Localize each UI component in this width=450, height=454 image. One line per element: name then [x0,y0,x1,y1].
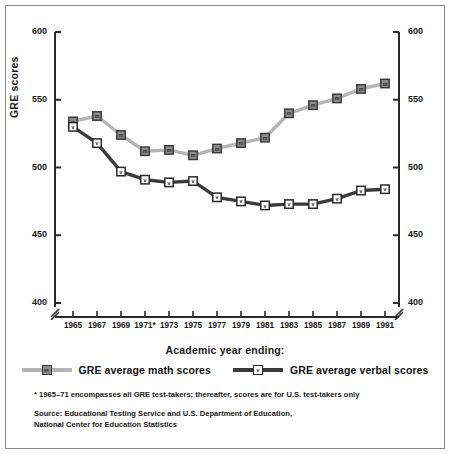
legend-marker-math-icon: m [42,365,52,375]
chart-svg: mmmmmmmmmmmmmmvvvvvvvvvvvvvv [0,0,450,320]
svg-text:v: v [240,198,243,204]
footnote-text: * 1965–71 encompasses all GRE test-taker… [34,390,424,399]
x-axis-title: Academic year ending: [0,344,450,356]
y-tick-label-right: 450 [408,229,434,239]
svg-text:v: v [384,186,387,192]
svg-text:m: m [311,102,316,108]
svg-text:v: v [192,178,195,184]
svg-text:m: m [263,135,268,141]
y-tick-label-right: 500 [408,162,434,172]
svg-text:m: m [119,132,124,138]
y-tick-label: 500 [21,162,47,172]
legend-item-verbal: v GRE average verbal scores [233,364,429,376]
svg-text:m: m [359,86,364,92]
svg-text:v: v [168,180,171,186]
svg-text:v: v [264,203,267,209]
y-tick-label: 400 [21,297,47,307]
svg-text:v: v [120,169,123,175]
legend-label-verbal: GRE average verbal scores [290,364,429,376]
y-tick-label: 550 [21,94,47,104]
svg-text:m: m [239,140,244,146]
y-tick-label-right: 600 [408,26,434,36]
svg-text:m: m [287,110,292,116]
legend-label-math: GRE average math scores [79,364,211,376]
y-tick-label: 600 [21,26,47,36]
svg-text:v: v [312,201,315,207]
svg-text:v: v [216,194,219,200]
legend-line-math-icon [52,368,72,372]
svg-text:m: m [215,146,220,152]
legend-marker-verbal-icon: v [253,365,263,375]
svg-text:m: m [191,152,196,158]
legend-line-verbal-icon [263,368,283,372]
y-axis-title: GRE scores [8,56,20,118]
y-tick-label-right: 400 [408,297,434,307]
source-line-1: Source: Educational Testing Service and … [34,408,424,419]
chart-plot-area: mmmmmmmmmmmmmmvvvvvvvvvvvvvv GRE scores … [0,0,450,320]
chart-legend: m GRE average math scores v GRE average … [0,364,450,376]
svg-text:v: v [144,177,147,183]
gre-scores-figure: mmmmmmmmmmmmmmvvvvvvvvvvvvvv GRE scores … [0,0,450,454]
svg-text:m: m [383,81,388,87]
svg-text:v: v [360,188,363,194]
svg-text:v: v [72,124,75,130]
x-tick-label: 1991 [370,321,400,330]
svg-text:m: m [335,95,340,101]
legend-line-verbal-icon [233,368,253,372]
svg-text:m: m [95,113,100,119]
source-line-2: National Center for Education Statistics [34,419,424,430]
y-tick-label: 450 [21,229,47,239]
legend-line-math-icon [22,368,42,372]
svg-text:v: v [336,196,339,202]
svg-text:v: v [96,140,99,146]
legend-item-math: m GRE average math scores [22,364,211,376]
y-tick-label-right: 550 [408,94,434,104]
svg-text:m: m [167,147,172,153]
chart-notes: * 1965–71 encompasses all GRE test-taker… [34,390,424,430]
svg-text:m: m [143,148,148,154]
svg-text:v: v [288,201,291,207]
